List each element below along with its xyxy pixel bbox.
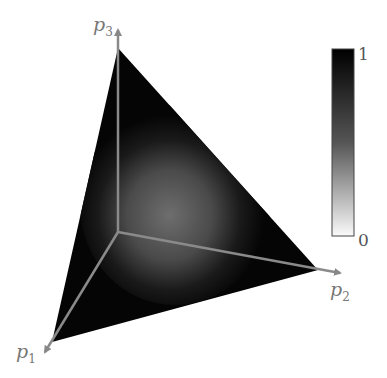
colorbar-min-label: 0 (358, 232, 369, 249)
colorbar-max-label: 1 (358, 46, 369, 63)
p1-label: p1 (16, 342, 36, 365)
simplex-surface (52, 48, 318, 342)
simplex-figure: p3 p2 p1 1 0 (0, 0, 387, 378)
p2-label: p2 (330, 280, 350, 303)
p3-label: p3 (93, 15, 113, 38)
simplex-plot (0, 0, 387, 378)
colorbar (332, 49, 354, 236)
